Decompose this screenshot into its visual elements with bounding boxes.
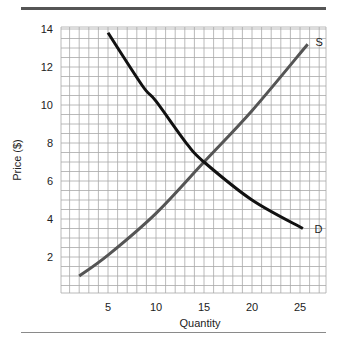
x-axis-label: Quantity	[180, 317, 221, 329]
x-tick-label: 15	[198, 301, 210, 313]
demand-label: D	[314, 223, 322, 235]
supply-curve	[79, 44, 307, 276]
y-tick-label: 12	[41, 61, 53, 73]
y-tick-label: 4	[47, 213, 53, 225]
curves	[79, 33, 307, 276]
y-tick-label: 14	[41, 23, 53, 35]
y-axis-ticks: 2468101214	[41, 23, 53, 263]
y-tick-label: 6	[47, 175, 53, 187]
x-tick-label: 10	[150, 301, 162, 313]
demand-curve	[108, 33, 303, 229]
y-tick-label: 2	[47, 251, 53, 263]
top-rule	[21, 7, 326, 10]
x-tick-label: 25	[294, 301, 306, 313]
x-tick-label: 5	[105, 301, 111, 313]
y-axis-label: Price ($)	[11, 139, 23, 181]
x-tick-label: 20	[246, 301, 258, 313]
y-tick-label: 10	[41, 99, 53, 111]
supply-demand-chart: 2468101214 510152025 Price ($) Quantity …	[0, 0, 337, 346]
supply-label: S	[315, 36, 322, 48]
x-axis-ticks: 510152025	[105, 301, 306, 313]
y-tick-label: 8	[47, 137, 53, 149]
curve-labels: SD	[314, 36, 322, 234]
bottom-rule	[21, 332, 326, 333]
grid	[61, 27, 326, 293]
